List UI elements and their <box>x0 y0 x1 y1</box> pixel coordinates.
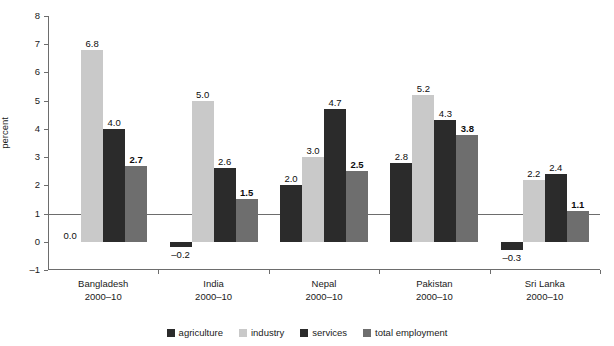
bar[interactable]: 3.8 <box>456 16 478 270</box>
legend-swatch-icon <box>239 329 247 337</box>
category-name: Pakistan <box>416 278 452 289</box>
bar-value-label: 2.5 <box>337 159 377 170</box>
legend-swatch-icon <box>300 329 308 337</box>
bar[interactable]: 2.7 <box>125 16 147 270</box>
legend-item[interactable]: services <box>300 328 347 338</box>
bar-group: –0.32.22.41.1 <box>490 16 600 270</box>
y-axis-tick-label: 7 <box>14 37 40 51</box>
bar-rect[interactable] <box>214 168 236 241</box>
bar[interactable]: 6.8 <box>81 16 103 270</box>
bar-value-label: 1.1 <box>558 199 598 210</box>
bar-rect[interactable] <box>523 180 545 242</box>
bar-chart: –1012345678 0.06.84.02.7–0.25.02.61.52.0… <box>0 0 614 346</box>
x-axis-tick <box>600 270 601 274</box>
bar-rect[interactable] <box>456 135 478 242</box>
bar-rect[interactable] <box>346 171 368 242</box>
bar-rect[interactable] <box>192 101 214 242</box>
bar[interactable]: 1.5 <box>236 16 258 270</box>
bar[interactable]: 1.1 <box>567 16 589 270</box>
y-axis-tick-mark <box>44 270 48 271</box>
y-axis-title: percent <box>0 117 10 149</box>
legend-swatch-icon <box>167 329 175 337</box>
bar-group: –0.25.02.61.5 <box>158 16 268 270</box>
bar-value-label: 2.7 <box>116 154 156 165</box>
y-axis-tick-label: 5 <box>14 94 40 108</box>
y-axis-tick-label: 3 <box>14 150 40 164</box>
legend-label: total employment <box>375 328 447 338</box>
bar[interactable]: 2.0 <box>280 16 302 270</box>
y-axis-tick-label: 1 <box>14 207 40 221</box>
legend-swatch-icon <box>363 329 371 337</box>
bar-rect[interactable] <box>170 242 192 248</box>
bar-rect[interactable] <box>125 166 147 242</box>
bar[interactable]: 4.0 <box>103 16 125 270</box>
bar[interactable]: 2.4 <box>545 16 567 270</box>
x-axis-tick <box>269 270 270 274</box>
x-axis-tick <box>158 270 159 274</box>
legend-label: agriculture <box>179 328 223 338</box>
bar-value-label: 1.5 <box>227 187 267 198</box>
bar[interactable]: 4.3 <box>434 16 456 270</box>
x-axis-tick <box>490 270 491 274</box>
bar[interactable]: 0.0 <box>59 16 81 270</box>
bar[interactable]: –0.2 <box>170 16 192 270</box>
category-name: Nepal <box>312 278 337 289</box>
bar[interactable]: 2.8 <box>390 16 412 270</box>
category-name: India <box>203 278 224 289</box>
bar-rect[interactable] <box>501 242 523 250</box>
bar[interactable]: 2.6 <box>214 16 236 270</box>
bar[interactable]: 2.2 <box>523 16 545 270</box>
bar-rect[interactable] <box>434 120 456 241</box>
bar-rect[interactable] <box>103 129 125 242</box>
y-axis-tick-label: 2 <box>14 178 40 192</box>
plot-area: –1012345678 0.06.84.02.7–0.25.02.61.52.0… <box>48 16 600 270</box>
legend-label: services <box>312 328 347 338</box>
x-axis-tick <box>379 270 380 274</box>
bar-rect[interactable] <box>324 109 346 242</box>
bar[interactable]: 3.0 <box>302 16 324 270</box>
bar-rect[interactable] <box>236 199 258 241</box>
bar-rect[interactable] <box>390 163 412 242</box>
bar-rect[interactable] <box>280 185 302 241</box>
y-axis-tick-label: 6 <box>14 65 40 79</box>
bar-rect[interactable] <box>81 50 103 242</box>
category-name: Sri Lanka <box>525 278 565 289</box>
y-axis-tick-label: –1 <box>14 263 40 277</box>
legend-item[interactable]: agriculture <box>167 328 223 338</box>
bar[interactable]: 4.7 <box>324 16 346 270</box>
y-axis-tick-label: 4 <box>14 122 40 136</box>
bar-group: 2.03.04.72.5 <box>269 16 379 270</box>
bar-group: 2.85.24.33.8 <box>379 16 489 270</box>
chart-legend: agricultureindustryservicestotal employm… <box>0 328 614 338</box>
bar-group: 0.06.84.02.7 <box>48 16 158 270</box>
legend-item[interactable]: total employment <box>363 328 447 338</box>
legend-item[interactable]: industry <box>239 328 284 338</box>
legend-label: industry <box>251 328 284 338</box>
y-axis-tick-label: 0 <box>14 235 40 249</box>
category-name: Bangladesh <box>78 278 128 289</box>
x-axis-category-label: Sri Lanka2000–10 <box>470 278 614 303</box>
bar-rect[interactable] <box>567 211 589 242</box>
bar[interactable]: 5.2 <box>412 16 434 270</box>
bar[interactable]: 2.5 <box>346 16 368 270</box>
category-period: 2000–10 <box>470 291 614 304</box>
bar[interactable]: 5.0 <box>192 16 214 270</box>
y-axis-tick-label: 8 <box>14 9 40 23</box>
bar[interactable]: –0.3 <box>501 16 523 270</box>
bar-rect[interactable] <box>302 157 324 242</box>
bar-value-label: 3.8 <box>447 123 487 134</box>
